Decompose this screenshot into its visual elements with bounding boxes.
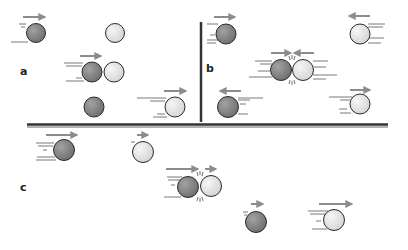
stage-b2-collision (249, 53, 337, 85)
light-ball (201, 176, 222, 197)
light-ball (293, 60, 314, 81)
speed-lines (64, 63, 84, 81)
speed-lines (238, 98, 263, 114)
panel-c (36, 135, 352, 233)
stage-c3 (243, 204, 352, 233)
panel-label-b: b (206, 62, 214, 75)
light-ball (165, 97, 185, 117)
stage-c1 (36, 135, 154, 163)
panel-label-c: c (20, 181, 27, 194)
dark-ball (178, 177, 199, 198)
speed-lines (11, 24, 28, 42)
stage-b3 (218, 90, 371, 118)
stage-c2-collision (164, 169, 222, 202)
dark-ball (82, 62, 102, 82)
stage-a2-collision (64, 56, 124, 82)
light-ball (350, 24, 370, 44)
light-ball (350, 94, 370, 114)
dark-ball (218, 97, 239, 118)
dark-ball (27, 24, 46, 43)
panel-a (11, 17, 186, 117)
stage-b1 (207, 16, 385, 44)
speed-lines (368, 24, 385, 43)
speed-lines (137, 98, 167, 117)
light-ball (106, 24, 125, 43)
panel-b (207, 16, 385, 118)
speed-lines (36, 143, 56, 160)
collision-diagram (0, 0, 408, 250)
light-ball (104, 62, 124, 82)
stage-a3 (84, 91, 186, 117)
light-ball (133, 142, 154, 163)
speed-lines (329, 97, 352, 113)
speed-lines (243, 212, 248, 215)
stage-a1 (11, 17, 125, 43)
dark-ball (271, 60, 292, 81)
dark-ball (54, 140, 75, 161)
dark-ball (216, 24, 236, 44)
panel-label-a: a (20, 65, 27, 78)
dark-ball (246, 212, 267, 233)
dark-ball (84, 97, 104, 117)
light-ball (324, 210, 345, 231)
